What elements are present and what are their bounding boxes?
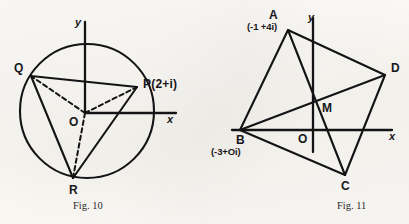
point-label-r: R (69, 184, 78, 196)
figure-10-canvas (0, 0, 205, 224)
y-axis-label: y (75, 17, 81, 28)
x-axis-label: x (167, 114, 173, 125)
point-label-d: D (391, 62, 400, 74)
figure-11-caption: Fig. 11 (337, 200, 366, 211)
point-label-q: Q (14, 62, 24, 74)
point-label-c: C (341, 180, 350, 192)
point-label-o: O (69, 116, 79, 128)
figure-11: A (-1 +4i) B (-3+Oi) C D M O y x Fig. 11 (205, 0, 409, 224)
radius-o-p-dashed (85, 87, 137, 113)
point-coord-b: (-3+Oi) (211, 147, 241, 157)
figure-11-canvas (205, 0, 409, 224)
point-label-p: P(2+i) (143, 78, 177, 90)
point-label-m: M (322, 102, 332, 114)
point-label-o: O (298, 133, 308, 145)
x-axis-label: x (389, 131, 395, 142)
figure-10: Q P(2+i) R O y x Fig. 10 (0, 0, 205, 224)
point-label-b: B (236, 134, 245, 146)
point-label-a: A (269, 9, 278, 21)
edge-c-d (345, 75, 385, 175)
y-axis-label: y (308, 12, 314, 23)
point-coord-a: (-1 +4i) (247, 22, 277, 32)
figure-10-caption: Fig. 10 (73, 200, 103, 211)
